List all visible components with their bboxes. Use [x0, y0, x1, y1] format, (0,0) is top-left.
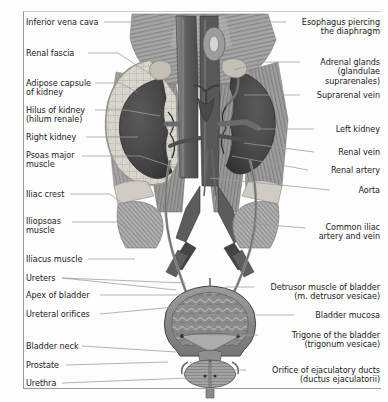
label-adrenal-glands: Adrenal glands (glandulae suprarenales) — [320, 58, 380, 86]
leader-ureters-a — [62, 278, 176, 290]
label-renal-vein: Renal vein — [338, 148, 380, 157]
label-common-iliac-artery-and-vein: Common iliac artery and vein — [319, 223, 380, 242]
label-iliacus-muscle: Iliacus muscle — [26, 255, 82, 264]
label-adipose-capsule-of-kidney: Adipose capsule of kidney — [26, 79, 91, 98]
leader-ureters-b — [62, 278, 186, 283]
leader-aorta — [210, 178, 330, 190]
anatomy-figure: Inferior vena cavaRenal fasciaAdipose ca… — [0, 0, 388, 402]
leader-detrusor — [206, 287, 254, 300]
leader-ureteral-orifices — [100, 305, 196, 314]
label-apex-of-bladder: Apex of bladder — [26, 291, 89, 300]
label-orifice-of-ejaculatory-ducts: Orifice of ejaculatory ducts (ductus eja… — [272, 366, 380, 385]
leader-renal-artery — [232, 156, 308, 170]
label-esophagus-piercing-the-diaphragm: Esophagus piercing the diaphragm — [302, 18, 380, 37]
label-inferior-vena-cava: Inferior vena cava — [26, 18, 98, 27]
leader-prostate — [66, 362, 168, 365]
leader-renal-vein — [244, 143, 314, 152]
leader-adipose-capsule — [95, 83, 137, 92]
label-iliopsoas-muscle: Iliopsoas muscle — [26, 217, 61, 236]
label-ureters: Ureters — [26, 274, 55, 283]
leader-orifice-ejaculatory — [190, 362, 246, 370]
label-bladder-neck: Bladder neck — [26, 342, 79, 351]
leader-iliac-crest — [70, 194, 124, 205]
leader-bladder-neck — [82, 346, 176, 352]
leader-hilus-of-kidney — [95, 110, 160, 116]
label-renal-artery: Renal artery — [331, 166, 380, 175]
leader-urethra — [62, 378, 190, 383]
label-iliac-crest: Iliac crest — [26, 190, 64, 199]
label-prostate: Prostate — [26, 361, 59, 370]
label-left-kidney: Left kidney — [336, 125, 380, 134]
leader-renal-fascia — [88, 53, 150, 74]
label-ureteral-orifices: Ureteral orifices — [26, 310, 90, 319]
leader-common-iliac — [232, 222, 306, 228]
label-aorta: Aorta — [358, 186, 380, 195]
label-hilus-of-kidney: Hilus of kidney (hilum renale) — [26, 106, 85, 125]
label-urethra: Urethra — [26, 379, 56, 388]
label-suprarenal-vein: Suprarenal vein — [317, 91, 380, 100]
label-psoas-major-muscle: Psoas major muscle — [26, 151, 74, 170]
label-renal-fascia: Renal fascia — [26, 49, 74, 58]
leader-iliopsoas — [72, 222, 150, 244]
leader-adrenal-glands — [234, 62, 300, 70]
label-detrusor-muscle-of-bladder: Detrusor muscle of bladder (m. detrusor … — [271, 283, 380, 302]
label-bladder-mucosa: Bladder mucosa — [315, 311, 380, 320]
leader-psoas-major — [82, 156, 176, 168]
leader-esophagus — [214, 22, 286, 36]
label-trigone-of-the-bladder: Trigone of the bladder (trigonum vesicae… — [292, 331, 380, 350]
label-right-kidney: Right kidney — [26, 133, 76, 142]
